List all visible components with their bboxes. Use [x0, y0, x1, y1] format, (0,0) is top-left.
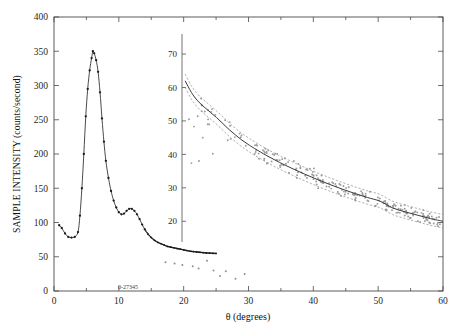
stray-data-point [174, 263, 176, 265]
inset-data-point [345, 187, 347, 189]
main-data-point [144, 229, 146, 231]
main-data-point [146, 232, 148, 234]
inset-y-tick-label: 30 [168, 183, 178, 193]
main-data-point [123, 212, 125, 214]
inset-data-point [321, 174, 323, 176]
inset-data-point [348, 186, 350, 188]
inset-data-point [426, 219, 428, 221]
inset-data-point [421, 212, 423, 214]
main-data-point [64, 232, 66, 234]
inset-data-point [376, 203, 378, 205]
inset-data-point [241, 134, 243, 136]
inset-data-point [311, 174, 313, 176]
main-data-point [67, 236, 69, 238]
inset-data-point [404, 208, 406, 210]
inset-data-point [410, 217, 412, 219]
stray-data-point [192, 265, 194, 267]
inset-data-point [271, 160, 273, 162]
main-data-point [125, 210, 127, 212]
inset-data-point [400, 205, 402, 207]
inset-data-point-outlier [197, 115, 199, 117]
inset-data-point [422, 213, 424, 215]
plot-frame [54, 17, 443, 291]
x-tick-label: 20 [179, 296, 189, 306]
stray-data-point [165, 261, 167, 263]
inset-data-point [392, 205, 394, 207]
inset-data-point [369, 191, 371, 193]
main-data-point [77, 231, 79, 233]
inset-data-point-outlier [212, 153, 214, 155]
stray-data-point [219, 275, 221, 277]
inset-data-point [211, 108, 213, 110]
inset-data-point [343, 185, 345, 187]
main-data-point [118, 211, 120, 213]
inset-band-upper [185, 74, 443, 214]
y-tick-label: 200 [34, 149, 49, 159]
inset-data-point [306, 177, 308, 179]
inset-data-point [424, 220, 426, 222]
x-tick-label: 40 [309, 296, 319, 306]
y-axis-tick-labels: 050100150200250300350400 [34, 12, 49, 296]
inset-data-point-outlier [202, 137, 204, 139]
inset-data-point [307, 169, 309, 171]
inset-data-point [412, 212, 414, 214]
inset-data-point [293, 160, 295, 162]
main-data-point [147, 234, 149, 236]
inset-data-point [437, 225, 439, 227]
main-data-point [105, 160, 107, 162]
inset-data-point [399, 212, 401, 214]
inset-data-point [330, 188, 332, 190]
inset-data-point [410, 207, 412, 209]
inset-data-point [436, 217, 438, 219]
main-data-point [87, 88, 89, 90]
inset-fit-curve [185, 81, 443, 221]
inset-data-point [296, 174, 298, 176]
inset-data-point [326, 185, 328, 187]
main-data-point [81, 187, 83, 189]
main-data-point [83, 153, 85, 155]
y-tick-label: 0 [43, 286, 48, 296]
inset-data-point-outlier [198, 160, 200, 162]
main-data-point [92, 50, 94, 52]
inset-data-point [264, 152, 266, 154]
main-data-point [115, 206, 117, 208]
inset-data-point [322, 179, 324, 181]
inset-data-point [204, 111, 206, 113]
main-data-point [145, 230, 147, 232]
inset-data-point [296, 177, 298, 179]
inset-data-point [266, 151, 268, 153]
inset-data-point [234, 136, 236, 138]
inset-data-point [334, 183, 336, 185]
y-axis-title: SAMPLE INTENSITY (counts/second) [11, 75, 23, 233]
inset-data-point [315, 181, 317, 183]
inset-data-point [354, 200, 356, 202]
inset-data-point [404, 215, 406, 217]
inset-data-point [284, 157, 286, 159]
stray-data-point [181, 264, 183, 266]
inset-data-point [412, 215, 414, 217]
xrd-figure: 0102030405060 050100150200250300350400 2… [0, 0, 473, 336]
inset-data-point [379, 197, 381, 199]
inset-data-point [279, 165, 281, 167]
x-axis-title: θ (degrees) [226, 311, 271, 323]
inset-y-tick-label: 40 [168, 150, 178, 160]
main-data-point [128, 208, 130, 210]
inset-data-point [343, 191, 345, 193]
inset-data-point [313, 167, 315, 169]
y-tick-label: 100 [34, 218, 49, 228]
main-data-point [120, 213, 122, 215]
inset-y-tick-label: 60 [168, 83, 178, 93]
main-data-point [79, 215, 81, 217]
inset-data-point [245, 145, 247, 147]
main-data-point [70, 236, 72, 238]
inset-data-point [386, 209, 388, 211]
inset-data-point [266, 163, 268, 165]
inset-data-point [429, 213, 431, 215]
inset-data-point [288, 172, 290, 174]
main-data-point [131, 208, 133, 210]
inset-data-point [431, 215, 433, 217]
x-tick-label: 50 [373, 296, 383, 306]
main-data-point [215, 253, 217, 255]
inset-data-point [377, 196, 379, 198]
inset-data-point [391, 209, 393, 211]
